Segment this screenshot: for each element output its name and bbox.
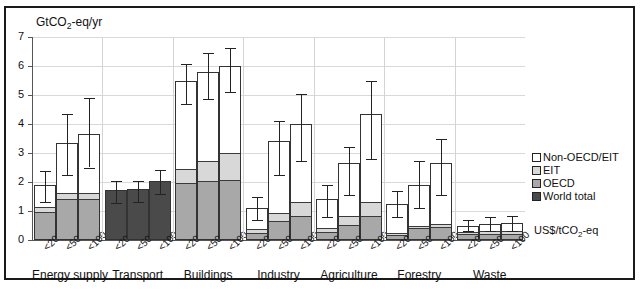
error-bar bbox=[397, 191, 398, 218]
error-bar-cap-lower bbox=[111, 203, 122, 204]
error-bar bbox=[279, 121, 280, 175]
bar-segment-eit bbox=[409, 226, 429, 228]
error-bar-cap-lower bbox=[344, 195, 355, 196]
x-axis-unit-label: US$/tCO2-eq bbox=[534, 224, 598, 239]
error-bar bbox=[419, 161, 420, 207]
group-separator bbox=[455, 37, 456, 240]
error-bar-cap-upper bbox=[392, 191, 403, 192]
bar-segment-oecd bbox=[198, 181, 218, 239]
error-bar-cap-upper bbox=[203, 53, 214, 54]
error-bar-cap-upper bbox=[507, 216, 518, 217]
group-label: Industry bbox=[243, 268, 313, 282]
error-bar-cap-upper bbox=[40, 171, 51, 172]
y-axis-line bbox=[32, 37, 33, 241]
error-bar-cap-upper bbox=[436, 139, 447, 140]
error-bar-cap-upper bbox=[181, 64, 192, 65]
group-separator bbox=[173, 37, 174, 240]
bar-segment-eit bbox=[176, 169, 196, 183]
error-bar-cap-upper bbox=[485, 217, 496, 218]
plot-area: GtCO2-eq/yr01234567<20<50<100Energy supp… bbox=[6, 8, 633, 278]
legend-swatch bbox=[532, 192, 541, 201]
error-bar bbox=[138, 181, 139, 202]
error-bar-cap-upper bbox=[111, 181, 122, 182]
group-separator bbox=[243, 37, 244, 240]
bar-segment-oecd bbox=[220, 180, 240, 239]
group-label: Waste bbox=[455, 268, 525, 282]
error-bar-cap-lower bbox=[414, 208, 425, 209]
error-bar-cap-upper bbox=[414, 161, 425, 162]
error-bar-cap-upper bbox=[225, 48, 236, 49]
gridline bbox=[32, 37, 525, 38]
error-bar bbox=[301, 94, 302, 161]
error-bar bbox=[116, 181, 117, 203]
chart-title: GtCO2-eq/yr bbox=[36, 15, 102, 31]
error-bar bbox=[512, 216, 513, 231]
error-bar-cap-lower bbox=[507, 231, 518, 232]
bar-segment-eit bbox=[220, 153, 240, 180]
y-axis-label: 6 bbox=[8, 59, 24, 71]
bar-segment-eit bbox=[317, 228, 337, 232]
error-bar-cap-upper bbox=[322, 185, 333, 186]
error-bar-cap-lower bbox=[181, 104, 192, 105]
bar-segment-eit bbox=[361, 202, 381, 216]
error-bar-cap-lower bbox=[40, 202, 51, 203]
error-bar bbox=[160, 170, 161, 194]
bar-segment-eit bbox=[198, 161, 218, 181]
error-bar-cap-lower bbox=[366, 159, 377, 160]
group-label: Energy supply bbox=[32, 268, 102, 282]
group-label: Buildings bbox=[173, 268, 243, 282]
bar-segment-eit bbox=[35, 207, 55, 212]
error-bar bbox=[468, 220, 469, 231]
bar-segment-eit bbox=[431, 224, 451, 227]
bar-segment-oecd bbox=[176, 183, 196, 239]
error-bar-cap-lower bbox=[225, 92, 236, 93]
error-bar bbox=[89, 98, 90, 168]
y-axis-label: 0 bbox=[8, 233, 24, 245]
legend-item: World total bbox=[532, 186, 619, 199]
error-bar-cap-lower bbox=[155, 194, 166, 195]
error-bar-cap-lower bbox=[274, 175, 285, 176]
bar-segment-eit bbox=[269, 213, 289, 221]
bar-segment-eit bbox=[339, 216, 359, 225]
error-bar bbox=[490, 217, 491, 232]
y-axis-label: 3 bbox=[8, 146, 24, 158]
y-axis-label: 1 bbox=[8, 204, 24, 216]
y-axis-label: 7 bbox=[8, 30, 24, 42]
gridline bbox=[32, 66, 525, 67]
error-bar bbox=[67, 114, 68, 175]
error-bar-cap-upper bbox=[296, 94, 307, 95]
legend-item: OECD bbox=[532, 173, 619, 186]
bar-segment-eit bbox=[247, 229, 267, 232]
error-bar-cap-lower bbox=[322, 217, 333, 218]
y-axis-label: 2 bbox=[8, 175, 24, 187]
legend-item: EIT bbox=[532, 160, 619, 173]
error-bar bbox=[230, 48, 231, 92]
error-bar-cap-upper bbox=[252, 197, 263, 198]
error-bar bbox=[186, 64, 187, 104]
error-bar-cap-lower bbox=[84, 168, 95, 169]
group-separator bbox=[102, 37, 103, 240]
y-axis-label: 5 bbox=[8, 88, 24, 100]
y-axis-label: 4 bbox=[8, 117, 24, 129]
error-bar-cap-upper bbox=[133, 181, 144, 182]
error-bar-cap-upper bbox=[84, 98, 95, 99]
legend-label: World total bbox=[543, 190, 595, 202]
group-label: Transport bbox=[102, 268, 172, 282]
error-bar-cap-lower bbox=[485, 231, 496, 232]
group-separator bbox=[384, 37, 385, 240]
chart-frame: GtCO2-eq/yr01234567<20<50<100Energy supp… bbox=[4, 6, 635, 280]
error-bar-cap-lower bbox=[296, 161, 307, 162]
error-bar bbox=[45, 171, 46, 202]
error-bar-cap-lower bbox=[203, 99, 214, 100]
legend: Non-OECD/EITEITOECDWorld total bbox=[532, 147, 619, 199]
error-bar-cap-upper bbox=[155, 170, 166, 171]
error-bar bbox=[349, 147, 350, 195]
bar-segment-eit bbox=[79, 193, 99, 199]
group-label: Forestry bbox=[384, 268, 454, 282]
bar-segment-eit bbox=[291, 202, 311, 216]
group-separator bbox=[314, 37, 315, 240]
error-bar-cap-upper bbox=[62, 114, 73, 115]
error-bar-cap-lower bbox=[252, 220, 263, 221]
error-bar bbox=[441, 139, 442, 196]
error-bar-cap-lower bbox=[62, 175, 73, 176]
